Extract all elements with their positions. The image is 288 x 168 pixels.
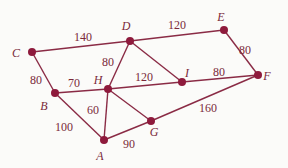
node-B [51, 89, 59, 97]
edge-H-G [108, 89, 151, 121]
edge-weight-B-A: 100 [55, 120, 73, 134]
edge-weight-I-F: 80 [213, 65, 225, 79]
node-D [126, 37, 134, 45]
edge-weight-H-I: 120 [135, 70, 153, 84]
edge-weight-C-B: 80 [30, 73, 42, 87]
weighted-graph-diagram: 14012080807080120801006090160ABCDEFGHI [0, 0, 288, 168]
node-label-F: F [262, 69, 271, 83]
node-H [104, 85, 112, 93]
node-E [220, 26, 228, 34]
node-label-H: H [93, 73, 104, 87]
edge-weight-B-H: 70 [68, 76, 80, 90]
node-label-D: D [121, 19, 131, 33]
edge-weight-G-F: 160 [199, 101, 217, 115]
edge-weight-E-F: 80 [239, 43, 251, 57]
node-label-C: C [12, 46, 21, 60]
edge-H-A [104, 89, 108, 140]
edge-weight-C-D: 140 [74, 30, 92, 44]
node-C [28, 48, 36, 56]
node-label-G: G [150, 125, 159, 139]
graph-canvas: 14012080807080120801006090160ABCDEFGHI [0, 0, 288, 168]
node-label-I: I [184, 66, 190, 80]
node-label-B: B [40, 99, 48, 113]
node-G [147, 117, 155, 125]
node-label-E: E [216, 10, 225, 24]
edge-weight-D-E: 120 [168, 18, 186, 32]
edge-weight-D-H: 80 [102, 55, 114, 69]
edge-B-H [55, 89, 108, 93]
node-F [254, 71, 262, 79]
node-label-A: A [95, 149, 104, 163]
edge-weight-H-A: 60 [87, 103, 99, 117]
edge-weight-A-G: 90 [123, 137, 135, 151]
node-A [100, 136, 108, 144]
